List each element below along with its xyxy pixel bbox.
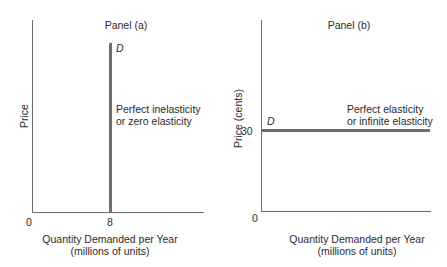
- panel-a-note-line1: Perfect inelasticity: [116, 103, 201, 115]
- panel-a-origin-label: 0: [26, 216, 32, 228]
- panel-b-x-axis: [261, 211, 431, 212]
- panel-b-note-line2: or infinite elasticity: [347, 115, 433, 127]
- panel-b-note-line1: Perfect elasticity: [347, 103, 423, 115]
- panel-a-x-axis: [32, 212, 204, 213]
- panel-a-curve-label: D: [116, 42, 124, 54]
- panel-a-title: Panel (a): [96, 19, 156, 31]
- panel-b-curve-label: D: [267, 115, 275, 127]
- panel-a-demand-curve: [109, 43, 112, 213]
- panel-a-x-tick-8: 8: [107, 216, 113, 228]
- panel-a-note-line2: or zero elasticity: [116, 115, 192, 127]
- panel-b-x-label-line1: Quantity Demanded per Year: [287, 233, 427, 245]
- panel-b-y-tick-30: 30: [241, 125, 253, 137]
- panel-a-y-label: Price: [18, 104, 30, 128]
- panel-a-x-label-line2: (millions of units): [40, 245, 180, 257]
- panel-a-x-label-line1: Quantity Demanded per Year: [40, 233, 180, 245]
- panel-b-y-label: Price (cents): [232, 89, 244, 148]
- panel-a-y-axis: [32, 20, 33, 213]
- panel-b-origin-label: 0: [252, 212, 258, 224]
- panel-b-title: Panel (b): [319, 19, 379, 31]
- panel-b-x-label-line2: (millions of units): [287, 245, 427, 257]
- panel-b-y-axis: [261, 20, 262, 212]
- panel-b-demand-curve: [261, 129, 430, 132]
